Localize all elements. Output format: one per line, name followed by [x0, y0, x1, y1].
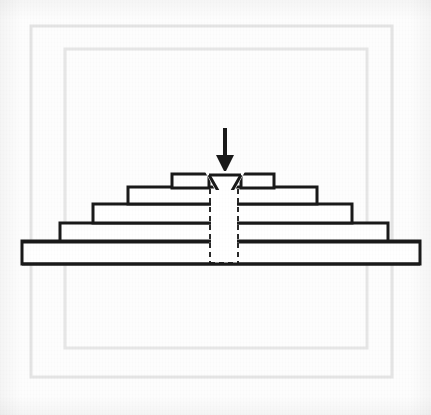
- channel-interior-mask: [211, 190, 237, 263]
- step-top-left: [172, 174, 209, 188]
- technical-diagram: [0, 0, 431, 415]
- figure-root: [0, 0, 431, 415]
- dashed-channel-group: [210, 189, 238, 263]
- step-top-right: [241, 174, 274, 188]
